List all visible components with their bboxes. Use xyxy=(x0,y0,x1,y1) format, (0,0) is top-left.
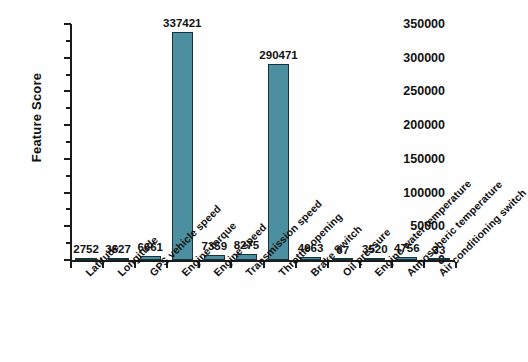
plot-area: 0500001000001500002000002500003000003500… xyxy=(70,24,455,260)
y-tick-major xyxy=(64,225,71,227)
y-tick-major xyxy=(64,192,71,194)
x-tick xyxy=(70,262,72,268)
y-tick-label: 300000 xyxy=(375,51,445,65)
y-tick-major xyxy=(64,57,71,59)
y-tick-label: 250000 xyxy=(375,84,445,98)
y-tick-minor xyxy=(66,208,71,210)
y-tick-label: 150000 xyxy=(375,152,445,166)
y-axis-title: Feature Score xyxy=(29,38,44,198)
y-tick-major xyxy=(64,259,71,261)
y-tick-label: 100000 xyxy=(375,186,445,200)
y-tick-major xyxy=(64,158,71,160)
y-tick-label: 200000 xyxy=(375,118,445,132)
y-tick-minor xyxy=(66,242,71,244)
y-tick-minor xyxy=(66,141,71,143)
y-tick-minor xyxy=(66,175,71,177)
y-tick-major xyxy=(64,124,71,126)
y-tick-minor xyxy=(66,74,71,76)
y-tick-minor xyxy=(66,40,71,42)
bar-value-label: 337421 xyxy=(163,17,201,29)
y-tick-major xyxy=(64,23,71,25)
bar-value-label: 290471 xyxy=(259,49,297,61)
bar-value-label: 2752 xyxy=(73,243,99,255)
y-tick-major xyxy=(64,90,71,92)
y-tick-label: 350000 xyxy=(375,17,445,31)
y-tick-minor xyxy=(66,107,71,109)
